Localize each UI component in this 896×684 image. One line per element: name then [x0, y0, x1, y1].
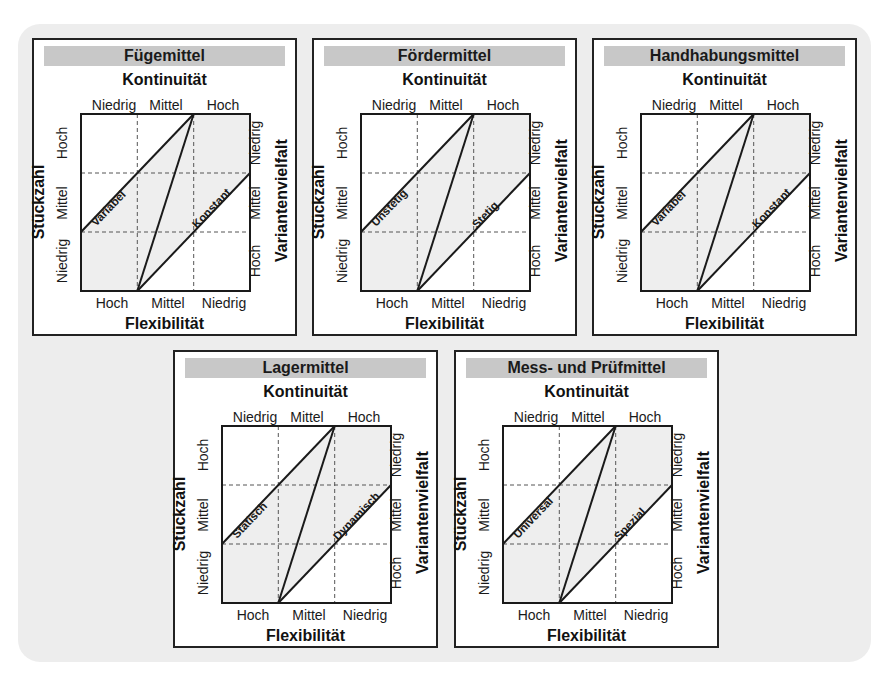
left-tick-mittel: Mittel	[334, 173, 350, 233]
bottom-tick-mittel: Mittel	[138, 295, 198, 311]
axis-label-stueckzahl: Stückzahl	[451, 454, 471, 574]
top-tick-niedrig: Niedrig	[506, 409, 566, 425]
right-tick-mittel: Mittel	[388, 485, 404, 545]
top-tick-hoch: Hoch	[334, 409, 394, 425]
left-tick-niedrig: Niedrig	[54, 231, 70, 291]
matrix-svg: Variabel Konstant	[641, 114, 810, 291]
top-tick-mittel: Mittel	[136, 97, 196, 113]
panel-lagermittel: Lagermittel Kontinuität Niedrig Mittel H…	[173, 350, 438, 648]
axis-label-flexibilitaet: Flexibilität	[456, 626, 717, 646]
axis-label-flexibilitaet: Flexibilität	[175, 626, 436, 646]
axis-label-stueckzahl: Stückzahl	[170, 454, 190, 574]
top-tick-hoch: Hoch	[615, 409, 675, 425]
right-tick-mittel: Mittel	[669, 485, 685, 545]
right-tick-mittel: Mittel	[807, 173, 823, 233]
bottom-tick-hoch: Hoch	[642, 295, 702, 311]
panel-title: Fügemittel	[44, 46, 285, 66]
top-tick-mittel: Mittel	[277, 409, 337, 425]
left-tick-hoch: Hoch	[54, 113, 70, 173]
right-tick-mittel: Mittel	[247, 173, 263, 233]
panel-title: Fördermittel	[324, 46, 565, 66]
right-tick-niedrig: Niedrig	[807, 113, 823, 173]
axis-label-kontinuitaet: Kontinuität	[456, 382, 717, 402]
right-tick-niedrig: Niedrig	[247, 113, 263, 173]
top-tick-mittel: Mittel	[416, 97, 476, 113]
panel-fuegemittel: Fügemittel Kontinuität Niedrig Mittel Ho…	[32, 38, 297, 336]
axis-label-kontinuitaet: Kontinuität	[594, 70, 855, 90]
matrix-plot: Unstetig Stetig	[361, 114, 530, 291]
right-tick-niedrig: Niedrig	[388, 425, 404, 485]
top-tick-mittel: Mittel	[558, 409, 618, 425]
panel-title: Mess- und Prüfmittel	[466, 358, 707, 378]
axis-label-variantenvielfalt: Variantenvielfalt	[552, 142, 572, 262]
bottom-tick-mittel: Mittel	[418, 295, 478, 311]
top-tick-hoch: Hoch	[753, 97, 813, 113]
axis-label-kontinuitaet: Kontinuität	[175, 382, 436, 402]
right-tick-hoch: Hoch	[527, 231, 543, 291]
axis-label-variantenvielfalt: Variantenvielfalt	[832, 142, 852, 262]
left-tick-hoch: Hoch	[476, 425, 492, 485]
left-tick-mittel: Mittel	[614, 173, 630, 233]
axis-label-flexibilitaet: Flexibilität	[314, 314, 575, 334]
top-tick-niedrig: Niedrig	[84, 97, 144, 113]
left-tick-hoch: Hoch	[195, 425, 211, 485]
top-tick-niedrig: Niedrig	[364, 97, 424, 113]
axis-label-kontinuitaet: Kontinuität	[314, 70, 575, 90]
left-tick-niedrig: Niedrig	[195, 543, 211, 603]
matrix-svg: Statisch Dynamisch	[222, 426, 391, 603]
bottom-tick-niedrig: Niedrig	[335, 607, 395, 623]
matrix-plot: Variabel Konstant	[81, 114, 250, 291]
right-tick-hoch: Hoch	[807, 231, 823, 291]
bottom-tick-hoch: Hoch	[223, 607, 283, 623]
top-tick-hoch: Hoch	[193, 97, 253, 113]
panel-handhabungsmittel: Handhabungsmittel Kontinuität Niedrig Mi…	[592, 38, 857, 336]
matrix-svg: Unstetig Stetig	[361, 114, 530, 291]
bottom-tick-niedrig: Niedrig	[754, 295, 814, 311]
left-tick-hoch: Hoch	[334, 113, 350, 173]
left-tick-niedrig: Niedrig	[476, 543, 492, 603]
matrix-plot: Statisch Dynamisch	[222, 426, 391, 603]
left-tick-mittel: Mittel	[195, 485, 211, 545]
bottom-tick-niedrig: Niedrig	[474, 295, 534, 311]
axis-label-variantenvielfalt: Variantenvielfalt	[272, 142, 292, 262]
top-tick-mittel: Mittel	[696, 97, 756, 113]
axis-label-stueckzahl: Stückzahl	[29, 142, 49, 262]
left-tick-niedrig: Niedrig	[614, 231, 630, 291]
right-tick-hoch: Hoch	[247, 231, 263, 291]
top-tick-niedrig: Niedrig	[644, 97, 704, 113]
panel-foerdermittel: Fördermittel Kontinuität Niedrig Mittel …	[312, 38, 577, 336]
axis-label-stueckzahl: Stückzahl	[589, 142, 609, 262]
bottom-tick-hoch: Hoch	[504, 607, 564, 623]
axis-label-variantenvielfalt: Variantenvielfalt	[413, 454, 433, 574]
bottom-tick-hoch: Hoch	[362, 295, 422, 311]
top-tick-niedrig: Niedrig	[225, 409, 285, 425]
matrix-svg: Variabel Konstant	[81, 114, 250, 291]
right-tick-hoch: Hoch	[388, 543, 404, 603]
axis-label-kontinuitaet: Kontinuität	[34, 70, 295, 90]
left-tick-hoch: Hoch	[614, 113, 630, 173]
bottom-tick-niedrig: Niedrig	[194, 295, 254, 311]
right-tick-hoch: Hoch	[669, 543, 685, 603]
panel-title: Handhabungsmittel	[604, 46, 845, 66]
right-tick-niedrig: Niedrig	[527, 113, 543, 173]
bottom-tick-mittel: Mittel	[560, 607, 620, 623]
panel-title: Lagermittel	[185, 358, 426, 378]
axis-label-variantenvielfalt: Variantenvielfalt	[694, 454, 714, 574]
axis-label-flexibilitaet: Flexibilität	[594, 314, 855, 334]
matrix-svg: Universal Spezial	[503, 426, 672, 603]
axis-label-flexibilitaet: Flexibilität	[34, 314, 295, 334]
matrix-plot: Variabel Konstant	[641, 114, 810, 291]
bottom-tick-niedrig: Niedrig	[616, 607, 676, 623]
bottom-tick-mittel: Mittel	[698, 295, 758, 311]
top-tick-hoch: Hoch	[473, 97, 533, 113]
left-tick-niedrig: Niedrig	[334, 231, 350, 291]
bottom-tick-mittel: Mittel	[279, 607, 339, 623]
axis-label-stueckzahl: Stückzahl	[309, 142, 329, 262]
panel-mess-und-pruefmittel: Mess- und Prüfmittel Kontinuität Niedrig…	[454, 350, 719, 648]
bottom-tick-hoch: Hoch	[82, 295, 142, 311]
left-tick-mittel: Mittel	[476, 485, 492, 545]
right-tick-mittel: Mittel	[527, 173, 543, 233]
right-tick-niedrig: Niedrig	[669, 425, 685, 485]
matrix-plot: Universal Spezial	[503, 426, 672, 603]
left-tick-mittel: Mittel	[54, 173, 70, 233]
